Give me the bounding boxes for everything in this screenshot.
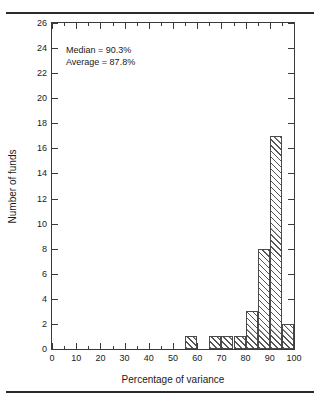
y-tick-label: 16 <box>37 144 47 153</box>
x-tick-label: 90 <box>265 354 275 363</box>
y-tick-label: 0 <box>42 345 47 354</box>
x-tick-label: 30 <box>120 354 130 363</box>
histogram-bar <box>270 136 282 349</box>
y-tick-label: 10 <box>37 219 47 228</box>
plot-area: 02468101214161820222426 0102030405060708… <box>51 22 295 350</box>
x-tick-label: 50 <box>168 354 178 363</box>
histogram-bar <box>246 311 258 349</box>
x-axis-title: Percentage of variance <box>51 374 295 385</box>
y-tick-label: 18 <box>37 119 47 128</box>
x-tick <box>294 343 295 349</box>
y-tick <box>52 349 58 350</box>
x-tick-top <box>294 23 295 29</box>
histogram-bar <box>221 336 233 349</box>
y-tick-label: 2 <box>42 319 47 328</box>
histogram-bar <box>234 336 246 349</box>
histogram-figure: Number of funds 02468101214161820222426 … <box>0 14 320 390</box>
histogram-bars <box>52 23 294 349</box>
x-tick-label: 100 <box>286 354 301 363</box>
y-axis-title-label: Number of funds <box>8 149 19 223</box>
x-tick-label: 20 <box>95 354 105 363</box>
x-tick-label: 70 <box>216 354 226 363</box>
y-tick-label: 12 <box>37 194 47 203</box>
y-axis-title: Number of funds <box>6 22 20 350</box>
histogram-bar <box>185 336 197 349</box>
histogram-bar <box>282 324 294 349</box>
y-tick-label: 8 <box>42 244 47 253</box>
y-tick-label: 14 <box>37 169 47 178</box>
y-tick-label: 4 <box>42 294 47 303</box>
x-tick-label: 60 <box>192 354 202 363</box>
average-annotation: Average = 87.8% <box>66 56 135 68</box>
bottom-divider-rule <box>6 391 314 393</box>
x-tick-label: 40 <box>144 354 154 363</box>
y-tick-label: 20 <box>37 94 47 103</box>
x-tick-label: 10 <box>71 354 81 363</box>
y-tick-label: 22 <box>37 69 47 78</box>
histogram-bar <box>258 249 270 349</box>
y-tick-right <box>288 349 294 350</box>
y-tick-label: 26 <box>37 19 47 28</box>
x-tick-label: 80 <box>241 354 251 363</box>
y-tick-label: 6 <box>42 269 47 278</box>
x-tick-label: 0 <box>49 354 54 363</box>
histogram-bar <box>209 336 221 349</box>
statistics-annotation: Median = 90.3% Average = 87.8% <box>66 44 135 68</box>
y-tick-label: 24 <box>37 44 47 53</box>
x-axis-title-label: Percentage of variance <box>122 374 225 385</box>
median-annotation: Median = 90.3% <box>66 44 135 56</box>
